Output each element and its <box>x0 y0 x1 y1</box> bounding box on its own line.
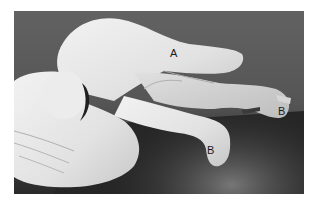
hand-photograph: A B B <box>14 11 304 194</box>
finger-label-b-lower: B <box>207 145 214 156</box>
finger-label-b-right: B <box>278 106 285 117</box>
finger-label-a: A <box>170 48 177 59</box>
hand-illustration <box>14 11 304 194</box>
